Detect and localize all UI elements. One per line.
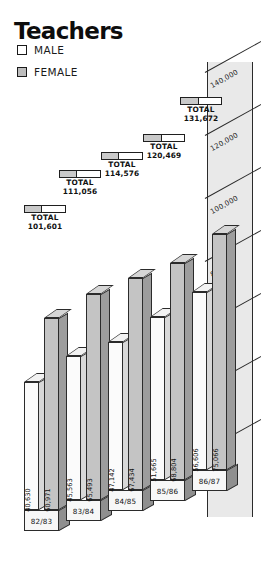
bar-female-85-86: 68,804 [170, 263, 185, 480]
bar-value-male: 56,606 [192, 448, 200, 472]
total-minibar-female-segment [77, 171, 100, 177]
bar-female-82-83: 60,971 [44, 318, 59, 510]
bar-face [128, 278, 143, 490]
year-axis-label: 83/84 [66, 507, 101, 516]
total-value: 114,576 [99, 170, 145, 179]
total-minibar-female-segment [199, 98, 221, 104]
total-callout-85-86: TOTAL120,469 [141, 134, 187, 160]
year-axis-label: 86/87 [192, 477, 227, 486]
bar-face [212, 234, 227, 470]
bar-value-male: 51,665 [150, 458, 158, 482]
total-minibar-male-segment [60, 171, 77, 177]
total-minibar [180, 97, 222, 105]
bar-value-male: 40,630 [24, 488, 32, 512]
total-value: 131,672 [178, 115, 224, 124]
bar-face [86, 294, 101, 500]
total-minibar-female-segment [162, 135, 184, 141]
total-minibar-male-segment [144, 135, 162, 141]
bar-female-83-84: 65,493 [86, 294, 101, 500]
total-value: 101,601 [22, 223, 68, 232]
bar-value-female: 67,434 [128, 468, 136, 492]
bar-value-female: 65,493 [86, 478, 94, 502]
bar-face [192, 292, 207, 470]
total-callout-82-83: TOTAL101,601 [22, 205, 68, 231]
bar-face [44, 318, 59, 510]
bar-male-86-87: 56,606 [192, 292, 207, 470]
total-minibar [101, 152, 143, 160]
total-value: 120,469 [141, 152, 187, 161]
bar-female-86-87: 75,066 [212, 234, 227, 470]
total-value: 111,056 [57, 188, 103, 197]
bar-value-male: 47,142 [108, 468, 116, 492]
total-minibar-male-segment [181, 98, 199, 104]
bar-face [170, 263, 185, 480]
bar-male-85-86: 51,665 [150, 317, 165, 480]
bar-value-female: 75,066 [212, 448, 220, 472]
total-callout-84-85: TOTAL114,576 [99, 152, 145, 178]
total-callout-83-84: TOTAL111,056 [57, 170, 103, 196]
total-minibar-female-segment [42, 206, 65, 212]
chart-canvas: Teachers MALE FEMALE 140,000120,000100,0… [0, 0, 261, 571]
bar-side [227, 228, 236, 470]
year-axis-label: 85/86 [150, 487, 185, 496]
bar-male-83-84: 45,563 [66, 356, 81, 500]
total-minibar-female-segment [119, 153, 142, 159]
total-minibar [59, 170, 101, 178]
bar-female-84-85: 67,434 [128, 278, 143, 490]
bar-value-female: 60,971 [44, 488, 52, 512]
year-axis-label: 84/85 [108, 497, 143, 506]
total-minibar-male-segment [102, 153, 119, 159]
total-callout-86-87: TOTAL131,672 [178, 97, 224, 123]
bar-male-82-83: 40,630 [24, 382, 39, 510]
bar-male-84-85: 47,142 [108, 342, 123, 490]
bar-value-male: 45,563 [66, 478, 74, 502]
bar-value-female: 68,804 [170, 458, 178, 482]
total-minibar-male-segment [25, 206, 42, 212]
plot-area: 40,63060,97182/8345,56365,49383/8447,142… [0, 0, 261, 571]
bar-face [150, 317, 165, 480]
total-minibar [24, 205, 66, 213]
total-minibar [143, 134, 185, 142]
year-axis-label: 82/83 [24, 517, 59, 526]
